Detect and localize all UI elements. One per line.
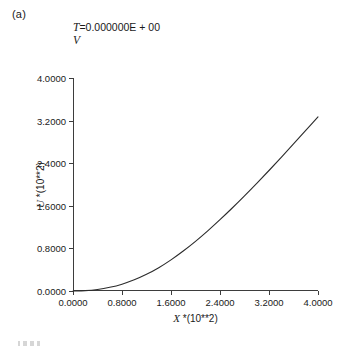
title-value: 0.000000E + 00: [86, 21, 160, 33]
x-axis-label: X *(10**2): [73, 312, 318, 324]
plot-title-line-2: V: [73, 34, 160, 47]
x-tick-mark: [73, 291, 74, 295]
curve-path: [73, 117, 318, 291]
y-axis-scale: *(10**2): [35, 162, 46, 197]
data-curve: [73, 78, 318, 291]
x-tick-label: 0.8000: [107, 297, 136, 308]
cropped-page-artifact: [18, 341, 40, 346]
plot-title: T=0.000000E + 00 V: [73, 21, 160, 47]
x-tick-mark: [220, 291, 221, 295]
x-tick-label: 2.4000: [205, 297, 234, 308]
y-tick-label: 4.0000: [37, 73, 66, 84]
plot-title-line-1: T=0.000000E + 00: [73, 21, 160, 34]
y-tick-label: 0.8000: [37, 243, 66, 254]
x-tick-mark: [269, 291, 270, 295]
x-tick-label: 4.0000: [303, 297, 332, 308]
y-tick-label: 0.0000: [37, 286, 66, 297]
panel-label: (a): [12, 8, 26, 20]
y-tick-label: 3.2000: [37, 115, 66, 126]
x-tick-mark: [171, 291, 172, 295]
x-tick-mark: [318, 291, 319, 295]
x-axis-variable: X: [173, 312, 180, 324]
x-tick-label: 3.2000: [254, 297, 283, 308]
y-axis-label: U *(10**2): [34, 162, 46, 208]
x-axis-scale: *(10**2): [183, 313, 218, 324]
x-tick-label: 0.0000: [58, 297, 87, 308]
x-tick-mark: [122, 291, 123, 295]
plot-area: 0.00000.80001.60002.40003.20004.0000 0.0…: [73, 78, 318, 291]
y-axis-variable: U: [34, 199, 46, 207]
x-tick-label: 1.6000: [156, 297, 185, 308]
